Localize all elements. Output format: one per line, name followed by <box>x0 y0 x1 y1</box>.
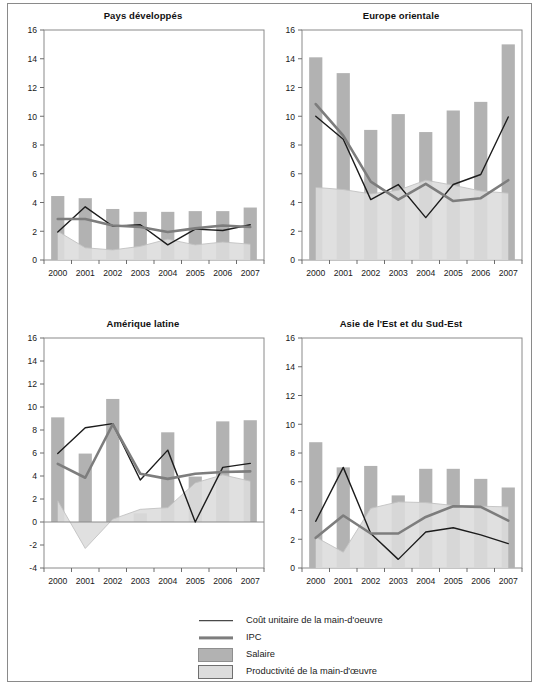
y-axis-tick-label: 0 <box>290 255 295 265</box>
x-axis-tick-label: 2002 <box>103 576 122 586</box>
chart-plot-area: 0246810121416200020012002200320042005200… <box>272 316 530 616</box>
y-axis-tick-label: 6 <box>290 477 295 487</box>
x-axis-tick-label: 2006 <box>213 268 232 278</box>
y-axis-tick-label: 10 <box>27 402 37 412</box>
bar-salaire <box>79 454 92 522</box>
y-axis-tick-label: 8 <box>290 448 295 458</box>
x-axis-tick-label: 2007 <box>499 268 518 278</box>
y-axis-tick-label: 14 <box>27 54 37 64</box>
bar-salaire <box>106 399 119 522</box>
x-axis-tick-label: 2002 <box>103 268 122 278</box>
x-axis-tick-label: 2006 <box>471 268 490 278</box>
y-axis-tick-label: 0 <box>290 563 295 573</box>
legend-item: IPC <box>197 629 517 646</box>
x-axis-tick-label: 2003 <box>131 576 150 586</box>
y-axis-tick-label: 0 <box>32 517 37 527</box>
y-axis-tick-label: 4 <box>290 506 295 516</box>
y-axis-tick-label: 10 <box>27 112 37 122</box>
x-axis-tick-label: 2001 <box>76 576 95 586</box>
x-axis-tick-label: 2003 <box>389 576 408 586</box>
y-axis-tick-label: -4 <box>29 563 37 573</box>
y-axis-tick-label: 14 <box>285 54 295 64</box>
y-axis-tick-label: 12 <box>27 379 37 389</box>
legend-key-cout-unitaire-line-icon <box>197 614 235 628</box>
y-axis-tick-label: 4 <box>32 198 37 208</box>
x-axis-tick-label: 2001 <box>76 268 95 278</box>
legend-item: Productivité de la main-d'œuvre <box>197 663 517 680</box>
y-axis-tick-label: 10 <box>285 420 295 430</box>
legend-item: Coût unitaire de la main-d'oeuvre <box>197 612 517 629</box>
y-axis-tick-label: 16 <box>27 25 37 35</box>
x-axis-tick-label: 2004 <box>158 576 177 586</box>
x-axis-tick-label: 2006 <box>213 576 232 586</box>
x-axis-tick-label: 2004 <box>416 576 435 586</box>
x-axis-tick-label: 2000 <box>48 576 67 586</box>
x-axis-tick-label: 2007 <box>241 268 260 278</box>
x-axis-tick-label: 2001 <box>334 576 353 586</box>
chart-plot-area: 0246810121416200020012002200320042005200… <box>14 8 272 308</box>
y-axis-tick-label: 8 <box>32 425 37 435</box>
y-axis-tick-label: 16 <box>27 333 37 343</box>
chart-panel-asie-est-sud-est: Asie de l'Est et du Sud-Est 024681012141… <box>272 316 530 616</box>
x-axis-tick-label: 2005 <box>186 268 205 278</box>
x-axis-tick-label: 2000 <box>48 268 67 278</box>
legend-key-productivite-swatch-icon <box>197 665 235 679</box>
chart-plot-area: -4-2024681012141620002001200220032004200… <box>14 316 272 616</box>
y-axis-tick-label: 12 <box>27 83 37 93</box>
y-axis-tick-label: 6 <box>290 169 295 179</box>
y-axis-tick-label: 14 <box>27 356 37 366</box>
legend: Coût unitaire de la main-d'oeuvre IPC Sa… <box>197 612 517 684</box>
x-axis-tick-label: 2002 <box>361 268 380 278</box>
legend-key-salaire-swatch-icon <box>197 648 235 662</box>
legend-label: Salaire <box>246 650 275 659</box>
y-axis-tick-label: 0 <box>32 255 37 265</box>
x-axis-tick-label: 2004 <box>416 268 435 278</box>
y-axis-tick-label: 2 <box>290 535 295 545</box>
y-axis-tick-label: 2 <box>32 227 37 237</box>
x-axis-tick-label: 2003 <box>389 268 408 278</box>
y-axis-tick-label: 14 <box>285 362 295 372</box>
y-axis-tick-label: -2 <box>29 540 37 550</box>
y-axis-tick-label: 16 <box>285 333 295 343</box>
chart-panel-europe-orientale: Europe orientale 02468101214162000200120… <box>272 8 530 308</box>
legend-label: IPC <box>246 633 262 642</box>
x-axis-tick-label: 2005 <box>444 576 463 586</box>
x-axis-tick-label: 2003 <box>131 268 150 278</box>
x-axis-tick-label: 2006 <box>471 576 490 586</box>
chart-plot-area: 0246810121416200020012002200320042005200… <box>272 8 530 308</box>
x-axis-tick-label: 2000 <box>306 576 325 586</box>
y-axis-tick-label: 10 <box>285 112 295 122</box>
y-axis-tick-label: 4 <box>32 471 37 481</box>
y-axis-tick-label: 6 <box>32 448 37 458</box>
y-axis-tick-label: 4 <box>290 198 295 208</box>
x-axis-tick-label: 2004 <box>158 268 177 278</box>
legend-key-ipc-line-icon <box>197 631 235 645</box>
y-axis-tick-label: 12 <box>285 391 295 401</box>
x-axis-tick-label: 2002 <box>361 576 380 586</box>
x-axis-tick-label: 2007 <box>499 576 518 586</box>
y-axis-tick-label: 6 <box>32 169 37 179</box>
figure-root: Pays développés 024681012141620002001200… <box>0 0 539 687</box>
y-axis-tick-label: 2 <box>32 494 37 504</box>
x-axis-tick-label: 2001 <box>334 268 353 278</box>
legend-label: Coût unitaire de la main-d'oeuvre <box>246 616 383 625</box>
y-axis-tick-label: 8 <box>290 140 295 150</box>
x-axis-tick-label: 2000 <box>306 268 325 278</box>
y-axis-tick-label: 12 <box>285 83 295 93</box>
chart-panel-pays-developpes: Pays développés 024681012141620002001200… <box>14 8 272 308</box>
y-axis-tick-label: 2 <box>290 227 295 237</box>
x-axis-tick-label: 2005 <box>186 576 205 586</box>
y-axis-tick-label: 16 <box>285 25 295 35</box>
chart-panel-amerique-latine: Amérique latine -4-202468101214162000200… <box>14 316 272 616</box>
x-axis-tick-label: 2005 <box>444 268 463 278</box>
legend-label: Productivité de la main-d'œuvre <box>246 667 377 676</box>
legend-item: Salaire <box>197 646 517 663</box>
x-axis-tick-label: 2007 <box>241 576 260 586</box>
y-axis-tick-label: 8 <box>32 140 37 150</box>
